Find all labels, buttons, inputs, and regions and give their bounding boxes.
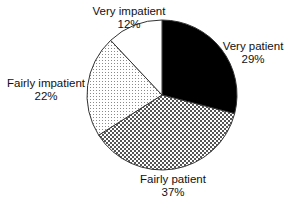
label-pct: 12% — [88, 18, 170, 31]
label-fairly-impatient: Fairly impatient 22% — [5, 77, 87, 103]
label-very-patient: Very patient 29% — [218, 40, 288, 66]
label-name: Fairly impatient — [5, 77, 87, 90]
label-name: Fairly patient — [133, 173, 213, 186]
label-pct: 22% — [5, 90, 87, 103]
label-very-impatient: Very impatient 12% — [88, 5, 170, 31]
label-pct: 37% — [133, 186, 213, 199]
label-pct: 29% — [218, 53, 288, 66]
label-fairly-patient: Fairly patient 37% — [133, 173, 213, 199]
label-name: Very patient — [218, 40, 288, 53]
label-name: Very impatient — [88, 5, 170, 18]
pie-slices — [87, 20, 237, 170]
